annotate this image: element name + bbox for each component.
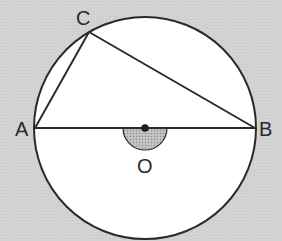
diagram-canvas: C A B O	[0, 0, 282, 241]
label-c: C	[76, 7, 90, 29]
label-o: O	[137, 155, 153, 177]
label-b: B	[259, 118, 272, 140]
label-a: A	[15, 118, 29, 140]
center-point-o	[141, 124, 149, 132]
geometry-figure: C A B O	[0, 0, 282, 241]
